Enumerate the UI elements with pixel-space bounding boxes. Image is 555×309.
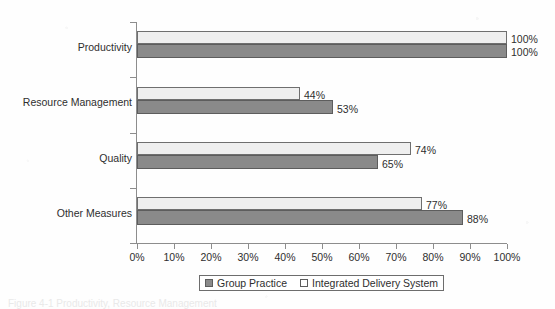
bar-integrated-delivery-system-resource-management: [137, 87, 300, 100]
x-axis-tick-label: 80%: [413, 251, 453, 263]
bar-group-practice-other-measures: [137, 210, 463, 225]
x-axis-tick-label: 40%: [265, 251, 305, 263]
bar-value-label: 100%: [511, 33, 538, 45]
x-axis-tick-label: 100%: [487, 251, 527, 263]
category-label-quality: Quality: [0, 152, 132, 164]
x-axis-tick-label: 70%: [376, 251, 416, 263]
y-axis-tick: [130, 133, 137, 134]
legend-label: Group Practice: [217, 277, 287, 289]
bar-integrated-delivery-system-other-measures: [137, 197, 422, 210]
bar-group-practice-quality: [137, 155, 378, 169]
y-axis-tick: [130, 22, 137, 23]
y-axis-tick: [130, 188, 137, 189]
bar-integrated-delivery-system-quality: [137, 142, 411, 155]
x-axis-tick-label: 90%: [450, 251, 490, 263]
legend-item-integrated-delivery-system: Integrated Delivery System: [300, 277, 438, 289]
x-axis-tick: [507, 244, 508, 249]
bar-value-label: 74%: [415, 144, 436, 156]
chart-legend: Group Practice Integrated Delivery Syste…: [199, 275, 444, 291]
bar-chart: Productivity Resource Management Quality…: [0, 0, 555, 309]
bar-group-practice-productivity: [137, 44, 507, 58]
bar-group-practice-resource-management: [137, 100, 333, 114]
x-axis-tick: [359, 244, 360, 249]
bar-value-label: 100%: [511, 46, 538, 58]
x-axis-tick-label: 30%: [228, 251, 268, 263]
legend-label: Integrated Delivery System: [312, 277, 438, 289]
x-axis-tick: [248, 244, 249, 249]
x-axis-tick-label: 20%: [191, 251, 231, 263]
x-axis-tick-label: 0%: [117, 251, 157, 263]
bar-integrated-delivery-system-productivity: [137, 31, 507, 44]
category-label-productivity: Productivity: [0, 41, 132, 53]
x-axis-tick: [470, 244, 471, 249]
legend-item-group-practice: Group Practice: [205, 277, 287, 289]
bar-value-label: 88%: [467, 213, 488, 225]
x-axis-tick: [137, 244, 138, 249]
x-axis-tick: [433, 244, 434, 249]
category-label-other-measures: Other Measures: [0, 207, 132, 219]
legend-swatch-icon: [205, 279, 213, 287]
x-axis-tick-label: 50%: [302, 251, 342, 263]
x-axis-tick-label: 60%: [339, 251, 379, 263]
x-axis-tick-label: 10%: [154, 251, 194, 263]
legend-swatch-icon: [300, 279, 308, 287]
x-axis-tick: [396, 244, 397, 249]
category-label-resource-management: Resource Management: [0, 96, 132, 108]
x-axis-tick: [322, 244, 323, 249]
x-axis-tick: [211, 244, 212, 249]
y-axis-tick: [130, 243, 137, 244]
y-axis-tick: [130, 77, 137, 78]
figure-caption-clipped: Figure 4-1 Productivity, Resource Manage…: [8, 298, 217, 309]
x-axis-tick: [174, 244, 175, 249]
bar-value-label: 65%: [382, 158, 403, 170]
bar-value-label: 53%: [337, 103, 358, 115]
x-axis-tick: [285, 244, 286, 249]
